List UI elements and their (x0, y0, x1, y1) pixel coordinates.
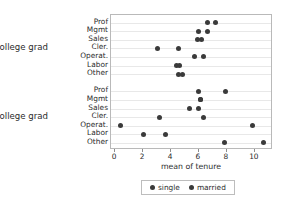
x-tick-label: 4 (160, 152, 180, 161)
category-label: Mgmt (50, 95, 108, 103)
gridline (111, 74, 271, 75)
data-point (213, 20, 218, 25)
x-tick-label: 0 (104, 152, 124, 161)
gridline (111, 134, 271, 135)
legend-label: single (158, 183, 180, 192)
data-point (196, 89, 201, 94)
data-point (196, 29, 201, 34)
x-axis: 0246810 (110, 149, 272, 163)
category-label: Mgmt (50, 26, 108, 34)
gridline (111, 40, 271, 41)
x-axis-title: mean of tenure (110, 162, 272, 171)
data-point (205, 20, 210, 25)
x-tick-label: 2 (132, 152, 152, 161)
data-point (177, 63, 182, 68)
data-point (205, 29, 210, 34)
data-point (198, 97, 203, 102)
x-tick-label: 10 (244, 152, 264, 161)
category-label: Cler. (50, 112, 108, 120)
data-point (157, 115, 162, 120)
gridline (111, 31, 271, 32)
data-point (192, 54, 197, 59)
data-point (261, 140, 266, 145)
data-point (201, 54, 206, 59)
data-point (163, 132, 168, 137)
data-point (250, 123, 255, 128)
group-label: college grad (0, 111, 48, 121)
data-point (222, 140, 227, 145)
gridline (111, 23, 271, 24)
data-point (201, 115, 206, 120)
gridline (111, 66, 271, 67)
gridline (111, 57, 271, 58)
gridline (111, 91, 271, 92)
legend-label: married (197, 183, 226, 192)
chart-legend: singlemarried (141, 180, 235, 195)
data-point (180, 72, 185, 77)
x-tick-label: 6 (188, 152, 208, 161)
group-label-column: not college gradcollege grad (0, 14, 48, 149)
legend-marker-icon (150, 185, 155, 190)
data-point (118, 123, 123, 128)
gridline (111, 143, 271, 144)
dot-plot-chart: not college gradcollege grad ProfMgmtSal… (0, 0, 281, 200)
data-point (187, 106, 192, 111)
legend-marker-icon (189, 185, 194, 190)
data-point (199, 37, 204, 42)
gridline (111, 126, 271, 127)
gridline (111, 117, 271, 118)
gridline (111, 48, 271, 49)
plot-panel (110, 14, 272, 149)
data-point (223, 89, 228, 94)
data-point (176, 46, 181, 51)
category-label: Other (50, 69, 108, 77)
legend-entry[interactable]: single (150, 183, 180, 192)
group-label: not college grad (0, 42, 48, 52)
category-label: Other (50, 138, 108, 146)
gridline (111, 100, 271, 101)
data-point (141, 132, 146, 137)
category-label: Operat. (50, 52, 108, 60)
data-point (155, 46, 160, 51)
category-label-column: ProfMgmtSalesCler.Operat.LaborOtherProfM… (48, 14, 108, 149)
legend-entry[interactable]: married (189, 183, 226, 192)
x-tick-label: 8 (216, 152, 236, 161)
data-point (196, 106, 201, 111)
